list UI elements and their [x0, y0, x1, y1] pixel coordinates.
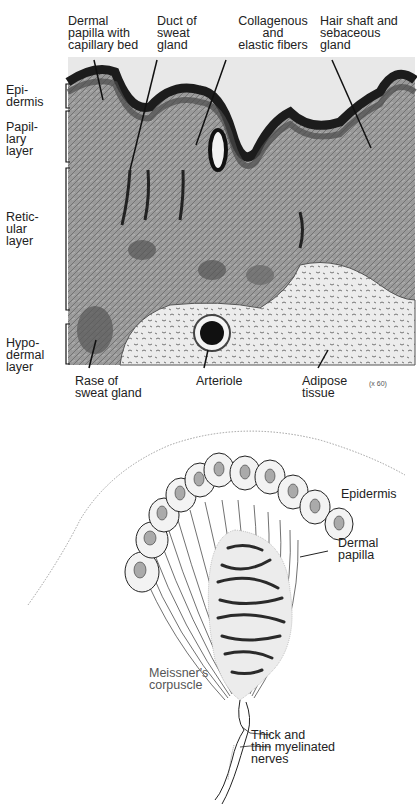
label-hair-shaft: Hair shaft and sebaceous gland: [320, 15, 398, 51]
label-myelinated-nerves: Thick and thin myelinated nerves: [251, 729, 335, 765]
label-reticular-layer: Retic- ular layer: [6, 211, 39, 247]
label-epidermis-layer: Epi- dermis: [6, 84, 44, 108]
label-dermal-papilla: Dermal papilla with capillary bed: [68, 15, 138, 51]
label-hypodermal-layer: Hypo- dermal layer: [6, 337, 44, 373]
micrograph-image: [0, 0, 417, 410]
label-collagenous-fibers: Collagenous and elastic fibers: [224, 15, 322, 51]
magnification-label: (x 60): [369, 378, 387, 390]
label-arteriole: Arteriole: [196, 375, 243, 387]
label-dermal-papilla-bottom: Dermal papilla: [338, 537, 378, 561]
label-duct-sweat-gland: Duct of sweat gland: [157, 15, 197, 51]
label-epidermis: Epidermis: [341, 488, 397, 500]
label-adipose-tissue: Adipose tissue: [302, 375, 347, 399]
label-papillary-layer: Papil- lary layer: [6, 121, 38, 157]
label-base-sweat-gland: Rase of sweat gland: [75, 375, 142, 399]
label-meissner-corpuscle: Meissner's corpuscle: [149, 667, 208, 691]
